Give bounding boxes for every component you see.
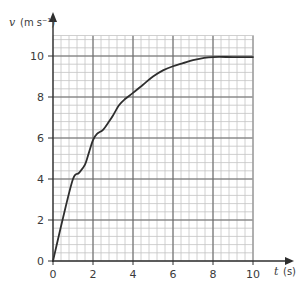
y-axis-unit: (m s⁻¹) (20, 17, 55, 28)
y-tick-label: 6 (37, 132, 44, 145)
series-line-velocity (53, 57, 253, 261)
minor-grid (53, 36, 253, 262)
x-tick-label: 0 (50, 268, 57, 281)
y-tick-label: 0 (37, 255, 44, 268)
ticks: 02468100246810 (30, 50, 260, 281)
x-tick-label: 6 (170, 268, 177, 281)
x-tick-label: 8 (210, 268, 217, 281)
y-tick-label: 4 (37, 173, 44, 186)
x-tick-label: 2 (90, 268, 97, 281)
series-layer (53, 57, 253, 261)
y-tick-label: 10 (30, 50, 44, 63)
x-axis-unit: (s) (283, 266, 296, 277)
y-tick-label: 8 (37, 91, 44, 104)
x-axis-arrow-icon (285, 257, 294, 265)
x-axis-label: t (274, 265, 279, 278)
velocity-time-graph: 02468100246810 v (m s⁻¹) t (s) (0, 0, 307, 293)
major-grid (53, 36, 253, 262)
y-tick-label: 2 (37, 214, 44, 227)
y-axis-label: v (9, 16, 16, 29)
x-tick-label: 4 (130, 268, 137, 281)
x-tick-label: 10 (246, 268, 260, 281)
